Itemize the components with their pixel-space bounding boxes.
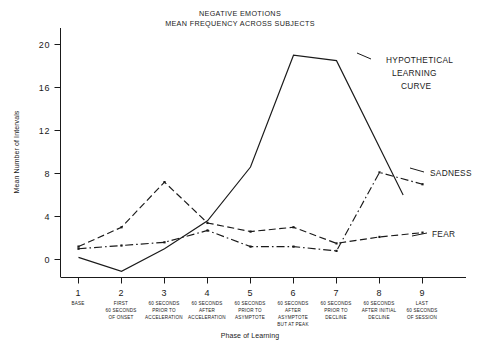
x-tick-label-6: 6 bbox=[290, 288, 295, 298]
x-category-4-line-1: 60 SECONDS bbox=[191, 301, 222, 306]
x-category-2-line-3: OF ONSET bbox=[108, 315, 133, 320]
y-tick-label-0: 0 bbox=[44, 255, 50, 265]
y-tick-label-4: 4 bbox=[44, 212, 50, 222]
data-point-marker bbox=[163, 181, 165, 183]
data-point-marker bbox=[292, 246, 294, 248]
chart-title-line-1: NEGATIVE EMOTIONS bbox=[199, 9, 281, 18]
x-category-3-line-1: 60 SECONDS bbox=[148, 301, 179, 306]
x-category-2-line-1: FIRST bbox=[114, 301, 128, 306]
x-tick-label-5: 5 bbox=[247, 288, 252, 298]
x-tick-label-8: 8 bbox=[376, 288, 381, 298]
x-category-9-line-2: 60 SECONDS bbox=[406, 308, 437, 313]
x-category-4-line-3: ACCELERATION bbox=[188, 315, 226, 320]
x-category-6-line-1: 60 SECONDS bbox=[277, 301, 308, 306]
x-axis-category-labels: BASE FIRST 60 SECONDS OF ONSET 60 SECOND… bbox=[71, 301, 437, 327]
x-category-6-line-4: BUT AT PEAK bbox=[277, 322, 309, 327]
data-point-marker bbox=[77, 248, 79, 250]
x-category-8-line-2: AFTER INITIAL bbox=[362, 308, 397, 313]
x-category-2-line-2: 60 SECONDS bbox=[105, 308, 136, 313]
leader-learning-curve bbox=[357, 53, 371, 59]
y-axis-ticks: 20 16 12 8 4 0 bbox=[39, 40, 61, 265]
data-point-marker bbox=[292, 226, 294, 228]
x-tick-label-4: 4 bbox=[204, 288, 209, 298]
x-category-7-line-3: DECLINE bbox=[325, 315, 346, 320]
data-series-layer bbox=[77, 53, 427, 271]
x-tick-label-3: 3 bbox=[161, 288, 166, 298]
sadness-label: SADNESS bbox=[430, 168, 472, 178]
data-point-marker bbox=[421, 183, 423, 185]
data-point-marker bbox=[77, 246, 79, 248]
x-category-5-line-3: ASYMPTOTE bbox=[235, 315, 265, 320]
y-tick-label-20: 20 bbox=[39, 40, 50, 50]
learning-curve-label-line-2: LEARNING bbox=[392, 68, 437, 78]
series-line-sadness bbox=[79, 172, 423, 250]
x-tick-label-1: 1 bbox=[75, 288, 80, 298]
chart-title-line-2: MEAN FREQUENCY ACROSS SUBJECTS bbox=[165, 19, 315, 28]
x-category-7-line-2: PRIOR TO bbox=[324, 308, 348, 313]
leader-sadness bbox=[410, 168, 424, 172]
learning-curve-label-line-3: CURVE bbox=[401, 81, 432, 91]
x-axis-title: Phase of Learning bbox=[221, 332, 280, 340]
data-point-marker bbox=[206, 229, 208, 231]
x-tick-label-2: 2 bbox=[118, 288, 123, 298]
chart-figure: NEGATIVE EMOTIONS MEAN FREQUENCY ACROSS … bbox=[0, 0, 479, 346]
chart-title: NEGATIVE EMOTIONS MEAN FREQUENCY ACROSS … bbox=[165, 9, 315, 28]
data-point-marker bbox=[249, 246, 251, 248]
x-axis-ticks: 1 2 3 4 5 6 7 8 9 bbox=[75, 278, 424, 299]
fear-label: FEAR bbox=[432, 229, 455, 239]
x-category-5-line-2: PRIOR TO bbox=[238, 308, 262, 313]
x-category-6-line-2: AFTER bbox=[285, 308, 302, 313]
x-category-7-line-1: 60 SECONDS bbox=[320, 301, 351, 306]
data-point-marker bbox=[163, 241, 165, 243]
series-line-hypothetical-learning-curve bbox=[79, 55, 404, 271]
x-category-3-line-3: ACCELERATION bbox=[145, 315, 183, 320]
data-point-marker bbox=[120, 244, 122, 246]
x-category-5-line-1: 60 SECONDS bbox=[234, 301, 265, 306]
x-category-8-line-1: 60 SECONDS bbox=[363, 301, 394, 306]
x-category-9-line-1: LAST bbox=[416, 301, 428, 306]
data-point-marker bbox=[120, 226, 122, 228]
y-tick-label-16: 16 bbox=[39, 83, 50, 93]
annotation-learning-curve: HYPOTHETICAL LEARNING CURVE bbox=[386, 55, 453, 91]
x-category-3-line-2: PRIOR TO bbox=[152, 308, 176, 313]
learning-curve-label-line-1: HYPOTHETICAL bbox=[386, 55, 453, 65]
y-tick-label-12: 12 bbox=[39, 126, 50, 136]
x-category-8-line-3: DECLINE bbox=[368, 315, 389, 320]
data-point-marker bbox=[206, 222, 208, 224]
y-tick-label-8: 8 bbox=[44, 169, 50, 179]
negative-emotions-line-chart: NEGATIVE EMOTIONS MEAN FREQUENCY ACROSS … bbox=[0, 0, 479, 346]
x-category-4-line-2: AFTER bbox=[199, 308, 216, 313]
series-line-fear bbox=[79, 182, 423, 247]
data-point-marker bbox=[335, 250, 337, 252]
x-tick-label-9: 9 bbox=[419, 288, 424, 298]
x-tick-label-7: 7 bbox=[333, 288, 338, 298]
data-point-marker bbox=[249, 230, 251, 232]
data-point-marker bbox=[378, 236, 380, 238]
x-category-1-line-1: BASE bbox=[71, 301, 84, 306]
data-point-marker bbox=[378, 171, 380, 173]
data-point-marker bbox=[335, 242, 337, 244]
x-category-9-line-3: OF SESSION bbox=[407, 315, 437, 320]
x-category-6-line-3: ASYMPTOTE bbox=[278, 315, 308, 320]
y-axis-title: Mean Number of Intervals bbox=[13, 110, 20, 193]
